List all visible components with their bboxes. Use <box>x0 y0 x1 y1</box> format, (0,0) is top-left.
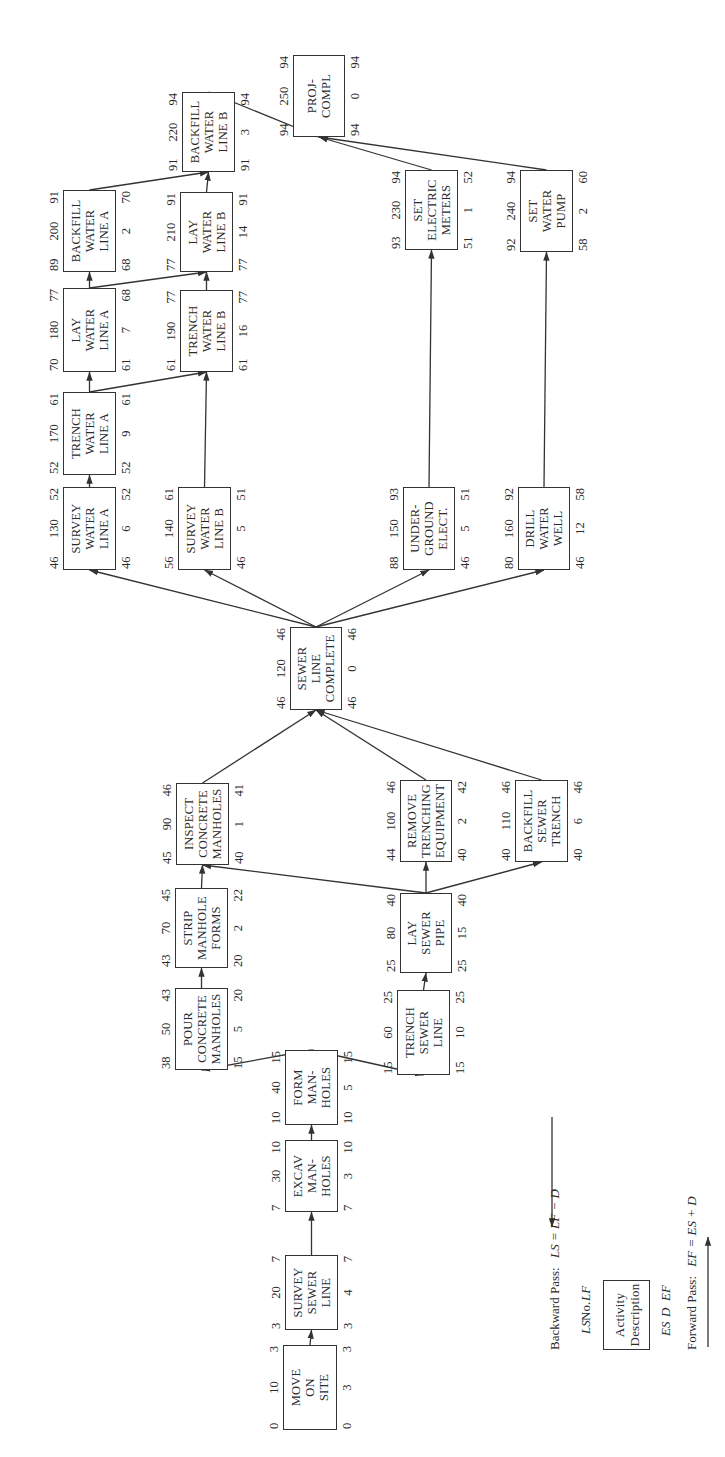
duration-value: 9 <box>119 430 133 436</box>
dependency-arrow <box>544 252 547 487</box>
early-finish-value: 61 <box>119 393 133 406</box>
late-finish-value: 46 <box>384 781 398 794</box>
duration-value: 0 <box>345 665 359 671</box>
early-start-value: 91 <box>238 159 252 172</box>
activity-number: 170 <box>47 424 61 443</box>
duration-value: 5 <box>341 1084 355 1090</box>
duration-value: 14 <box>236 226 250 239</box>
early-finish-value: 3 <box>340 1346 354 1352</box>
duration-value: 10 <box>453 1026 467 1039</box>
early-finish-value: 25 <box>453 991 467 1004</box>
forward-pass-label: Forward Pass: EF = ES + D <box>684 1196 700 1350</box>
duration-value: 16 <box>236 325 250 338</box>
activity-number: 110 <box>499 812 513 830</box>
late-start-value: 56 <box>162 557 176 570</box>
legend-activity-box: Activity Description <box>603 1280 650 1350</box>
dependency-arrow <box>90 172 209 190</box>
early-start-value: 58 <box>576 239 590 252</box>
early-finish-value: 46 <box>571 781 585 794</box>
duration-value: 6 <box>119 525 133 531</box>
early-start-value: 61 <box>119 359 133 372</box>
early-start-value: 46 <box>458 557 472 570</box>
early-start-value: 46 <box>119 557 133 570</box>
dependency-arrow <box>429 250 432 487</box>
dependency-arrow <box>316 710 426 780</box>
activity-node-backfill-a: BACKFILL WATER LINE A <box>63 190 116 272</box>
early-start-value: 61 <box>236 359 250 372</box>
early-finish-value: 68 <box>119 289 133 302</box>
early-start-value: 94 <box>348 124 362 137</box>
late-finish-value: 45 <box>159 889 173 902</box>
late-finish-value: 43 <box>159 989 173 1002</box>
early-start-value: 46 <box>345 697 359 710</box>
activity-number: 160 <box>502 519 516 538</box>
late-start-value: 80 <box>502 557 516 570</box>
dependency-arrow <box>424 973 427 990</box>
duration-value: 2 <box>119 228 133 234</box>
dependency-arrow <box>316 570 429 627</box>
duration-value: 7 <box>119 327 133 333</box>
duration-value: 3 <box>238 129 252 135</box>
dependency-arrow <box>319 137 547 170</box>
dependency-arrow <box>319 137 432 170</box>
duration-value: 2 <box>455 818 469 824</box>
early-start-value: 46 <box>573 557 587 570</box>
early-finish-value: 7 <box>341 1256 355 1262</box>
late-finish-value: 61 <box>47 393 61 406</box>
dependency-arrow <box>205 372 207 487</box>
activity-number: 180 <box>47 321 61 340</box>
early-start-value: 15 <box>231 1057 245 1070</box>
early-finish-value: 94 <box>348 56 362 69</box>
activity-number: 150 <box>387 519 401 538</box>
early-finish-value: 15 <box>341 1051 355 1064</box>
late-finish-value: 93 <box>387 488 401 501</box>
duration-value: 3 <box>341 1173 355 1179</box>
late-start-value: 3 <box>269 1323 283 1329</box>
early-start-value: 0 <box>340 1423 354 1429</box>
early-finish-value: 46 <box>345 628 359 641</box>
late-finish-value: 94 <box>389 171 403 184</box>
activity-node-meters: SET ELECTRIC METERS <box>405 170 458 250</box>
activity-number: 60 <box>381 1026 395 1039</box>
late-start-value: 40 <box>499 849 513 862</box>
early-start-value: 51 <box>461 237 475 250</box>
activity-number: 220 <box>166 123 180 142</box>
late-start-value: 61 <box>164 359 178 372</box>
dependency-arrow <box>316 570 544 627</box>
activity-node-survey-sewer: SURVEY SEWER LINE <box>285 1255 338 1330</box>
activity-node-lay-a: LAY WATER LINE A <box>63 288 116 372</box>
early-start-value: 77 <box>236 259 250 272</box>
duration-value: 5 <box>458 525 472 531</box>
early-finish-value: 52 <box>119 488 133 501</box>
dependency-arrow <box>203 710 317 783</box>
activity-number: 200 <box>47 222 61 241</box>
activity-node-survey-b: SURVEY WATER LINE B <box>178 487 231 570</box>
late-finish-value: 61 <box>162 488 176 501</box>
early-finish-value: 77 <box>236 291 250 304</box>
activity-number: 10 <box>267 1381 281 1394</box>
dependency-arrow <box>316 710 542 780</box>
duration-value: 1 <box>232 821 246 827</box>
activity-number: 50 <box>159 1023 173 1036</box>
activity-number: 30 <box>269 1170 283 1183</box>
early-finish-value: 58 <box>573 488 587 501</box>
late-start-value: 92 <box>504 239 518 252</box>
duration-value: 3 <box>340 1384 354 1390</box>
late-start-value: 52 <box>47 462 61 475</box>
late-start-value: 44 <box>384 849 398 862</box>
late-finish-value: 91 <box>164 193 178 206</box>
early-start-value: 40 <box>232 852 246 865</box>
dependency-arrow <box>90 570 317 627</box>
early-start-value: 68 <box>119 259 133 272</box>
late-finish-value: 94 <box>504 171 518 184</box>
early-finish-value: 51 <box>234 488 248 501</box>
late-start-value: 46 <box>274 697 288 710</box>
late-start-value: 7 <box>269 1205 283 1211</box>
early-start-value: 52 <box>119 462 133 475</box>
activity-node-move: MOVE ON SITE <box>283 1345 337 1430</box>
duration-value: 6 <box>571 818 585 824</box>
legend-no: No. <box>578 1302 594 1321</box>
activity-number: 20 <box>269 1286 283 1299</box>
duration-value: 2 <box>576 208 590 214</box>
late-start-value: 46 <box>47 557 61 570</box>
